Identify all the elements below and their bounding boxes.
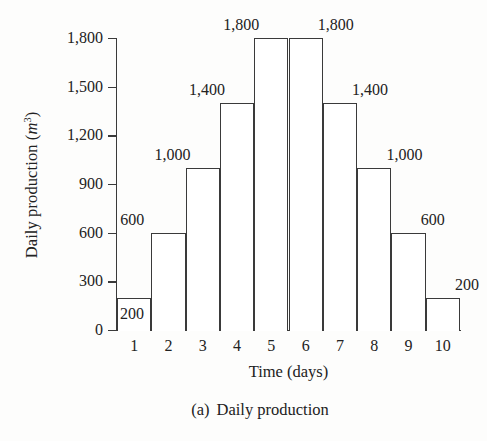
y-axis-tick-mark: [108, 330, 117, 331]
y-axis-tick-label: 1,200: [67, 125, 103, 145]
bar: [220, 103, 254, 331]
bar-value-label: 1,800: [223, 16, 259, 34]
y-axis-tick-label: 900: [79, 174, 103, 194]
figure-caption-index: (a): [191, 400, 209, 419]
bar-value-label: 1,800: [318, 16, 354, 34]
y-axis-tick: 1,200: [108, 135, 117, 136]
y-axis-tick-mark: [108, 281, 117, 282]
plot-area: 03006009001,2001,5001,800 2006001,0001,4…: [117, 38, 460, 330]
figure-daily-production: Daily production (m3) 03006009001,2001,5…: [0, 0, 487, 441]
y-axis-title-text: Daily production (: [22, 135, 41, 259]
x-axis-tick-label: 3: [186, 337, 220, 355]
x-axis-tick-label: 2: [151, 337, 185, 355]
y-axis-tick-label: 1,500: [67, 77, 103, 97]
x-axis-tick-label: 9: [391, 337, 425, 355]
y-axis-tick-mark: [108, 87, 117, 88]
y-axis-tick: 600: [108, 233, 117, 234]
y-axis-title: Daily production (m3): [22, 35, 48, 335]
bar: [151, 233, 185, 331]
bar-value-label: 200: [120, 305, 144, 323]
figure-caption: (a)Daily production: [60, 400, 460, 420]
y-axis-unit-exponent: 3: [22, 117, 33, 122]
bar: [391, 233, 425, 331]
bar-value-label: 600: [120, 211, 144, 229]
y-axis-tick-mark: [108, 233, 117, 234]
x-axis-tick-label: 5: [254, 337, 288, 355]
y-axis-tick-label: 1,800: [67, 28, 103, 48]
bar: [357, 168, 391, 331]
y-axis-tick: 900: [108, 184, 117, 185]
y-axis-tick-mark: [108, 135, 117, 136]
x-axis-tick-label: 6: [289, 337, 323, 355]
y-axis-tick: 0: [108, 330, 117, 331]
y-axis-tick: 300: [108, 281, 117, 282]
bar: [186, 168, 220, 331]
y-axis-tick: 1,800: [108, 38, 117, 39]
y-axis-tick-mark: [108, 184, 117, 185]
x-axis-tick-label: 10: [426, 337, 460, 355]
y-axis-tick-label: 600: [79, 223, 103, 243]
x-axis-tick-label: 8: [357, 337, 391, 355]
y-axis-tick-label: 300: [79, 271, 103, 291]
bar-value-label: 1,400: [352, 81, 388, 99]
x-axis-tick-label: 7: [323, 337, 357, 355]
bar-value-label: 600: [421, 211, 445, 229]
bar: [289, 38, 323, 331]
x-axis-title: Time (days): [117, 362, 460, 382]
y-axis-unit-symbol: m: [22, 123, 41, 135]
bar: [426, 298, 460, 331]
bar: [254, 38, 288, 331]
bar-value-label: 200: [455, 276, 479, 294]
y-axis-tick-mark: [108, 38, 117, 39]
bar-value-label: 1,400: [189, 81, 225, 99]
bar: [323, 103, 357, 331]
y-axis-tick-label: 0: [95, 320, 103, 340]
y-axis-unit-close-paren: ): [22, 112, 41, 118]
x-axis-tick-label: 1: [117, 337, 151, 355]
x-axis-tick-label: 4: [220, 337, 254, 355]
y-axis-tick: 1,500: [108, 87, 117, 88]
bar-value-label: 1,000: [155, 146, 191, 164]
figure-caption-text: Daily production: [217, 400, 329, 419]
bar-value-label: 1,000: [386, 146, 422, 164]
